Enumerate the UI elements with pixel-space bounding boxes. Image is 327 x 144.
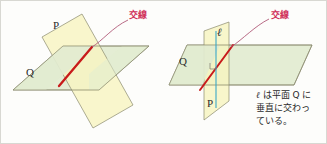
caption-line-3: ている。 bbox=[256, 115, 311, 128]
figure-container: P Q 交線 Q P ℓ 交線 ℓ は平面 Q に 垂直に交わっ ている。 bbox=[0, 0, 327, 144]
right-plane-q-label: Q bbox=[179, 56, 187, 67]
right-callout-leader-line bbox=[231, 19, 269, 47]
caption-line-1: ℓ は平面 Q に bbox=[256, 89, 311, 102]
caption-line-2: 垂直に交わっ bbox=[256, 102, 311, 115]
right-plane-p-label: P bbox=[207, 98, 213, 109]
right-line-ell-label: ℓ bbox=[217, 27, 222, 38]
left-plane-p-label: P bbox=[53, 20, 59, 31]
left-plane-q-label: Q bbox=[26, 67, 34, 78]
left-callout-kousen-label: 交線 bbox=[129, 11, 148, 20]
left-callout-leader-line bbox=[92, 20, 128, 47]
caption-line-1-text: は平面 Q に bbox=[260, 90, 312, 100]
caption-block: ℓ は平面 Q に 垂直に交わっ ている。 bbox=[256, 89, 311, 128]
right-callout-kousen-label: 交線 bbox=[271, 11, 290, 20]
